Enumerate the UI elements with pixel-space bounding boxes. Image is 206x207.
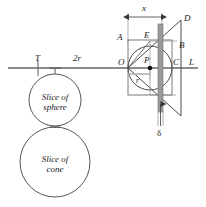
label-delta: δ <box>157 129 161 138</box>
label-C: C <box>173 58 179 67</box>
geometry-figure: x D A E B O P C L r δ T 2r Slice of sphe… <box>0 0 206 207</box>
label-D: D <box>184 14 191 23</box>
label-P: P <box>144 56 150 65</box>
label-E: E <box>144 31 150 40</box>
shaded-slab <box>158 24 163 112</box>
label-T: T <box>35 54 40 63</box>
label-slice-of-sphere-line2: sphere <box>35 103 75 112</box>
label-A: A <box>117 33 123 42</box>
label-2r: 2r <box>73 54 81 63</box>
label-O: O <box>118 58 125 67</box>
figure-vector-layer <box>0 0 206 207</box>
label-L: L <box>189 58 194 67</box>
label-slice-of-cone-line2: cone <box>35 165 75 174</box>
label-B: B <box>179 41 185 50</box>
label-x: x <box>142 4 146 13</box>
label-r: r <box>136 77 139 85</box>
label-slice-of-sphere-line1: Slice of <box>35 93 75 102</box>
point-p-dot <box>148 66 153 71</box>
label-slice-of-cone-line1: Slice of <box>35 155 75 164</box>
